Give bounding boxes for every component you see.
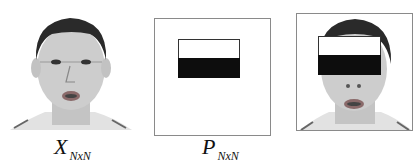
mask-white-region	[178, 39, 240, 59]
applied-mask-black	[318, 55, 381, 75]
label-p-nxn: PNxN	[202, 134, 239, 160]
occluded-face-panel	[296, 13, 413, 131]
mask-black-region	[178, 58, 240, 78]
label-p-main: P	[202, 134, 215, 159]
label-p-sub: NxN	[217, 149, 238, 163]
applied-mask-white	[318, 36, 381, 56]
occluded-face-frame	[296, 13, 413, 131]
